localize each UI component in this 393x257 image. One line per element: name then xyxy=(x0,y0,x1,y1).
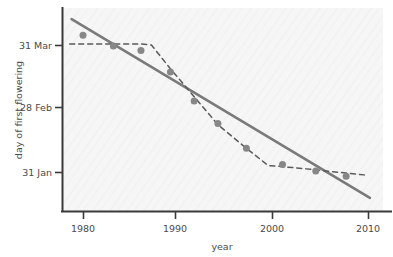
data-point-marker xyxy=(167,68,174,75)
data-point-marker xyxy=(110,43,117,50)
y-axis-title: day of first flowering xyxy=(13,61,24,159)
data-point-marker xyxy=(214,120,221,127)
data-point-marker xyxy=(279,161,286,168)
y-tick-label-31-mar: 31 Mar xyxy=(19,40,52,51)
x-tick-label-1980: 1980 xyxy=(71,223,95,234)
y-tick-label-28-feb: 28 Feb xyxy=(20,102,52,113)
data-point-marker xyxy=(80,32,87,39)
scatter-plot-svg: 31 Mar 28 Feb 31 Jan 1980 1990 2000 2010… xyxy=(0,0,393,257)
x-axis-title: year xyxy=(211,241,232,252)
x-tick-label-2010: 2010 xyxy=(356,223,380,234)
data-point-marker xyxy=(312,167,319,174)
data-point-marker xyxy=(343,173,350,180)
data-point-marker xyxy=(191,97,198,104)
data-point-marker xyxy=(137,47,144,54)
x-tick-label-1990: 1990 xyxy=(163,223,187,234)
data-point-marker xyxy=(243,145,250,152)
y-tick-label-31-jan: 31 Jan xyxy=(22,167,52,178)
x-tick-label-2000: 2000 xyxy=(260,223,284,234)
chart-figure: 31 Mar 28 Feb 31 Jan 1980 1990 2000 2010… xyxy=(0,0,393,257)
